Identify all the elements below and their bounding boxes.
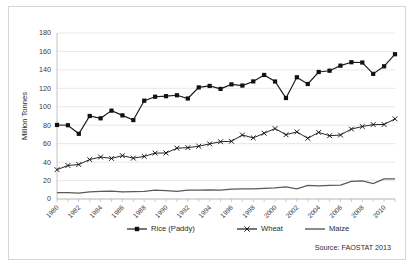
data-point-marker bbox=[262, 73, 266, 77]
data-point-marker bbox=[153, 95, 157, 99]
data-point-marker bbox=[186, 96, 190, 100]
x-axis-tick-label: 1998 bbox=[241, 204, 257, 220]
source-note: Source: FAOSTAT 2013 bbox=[315, 243, 391, 252]
x-axis-tick-label: 1994 bbox=[197, 204, 213, 220]
data-point-marker bbox=[164, 94, 168, 98]
x-axis-tick-label: 1984 bbox=[88, 204, 104, 220]
data-point-marker bbox=[371, 72, 375, 76]
data-point-marker bbox=[88, 114, 92, 118]
data-point-marker bbox=[338, 64, 342, 68]
x-axis-tick-label: 1992 bbox=[175, 204, 191, 220]
data-point-marker bbox=[316, 130, 321, 135]
data-point-marker bbox=[99, 116, 103, 120]
data-point-marker bbox=[382, 64, 386, 68]
x-axis-tick-label: 1982 bbox=[66, 204, 82, 220]
y-axis-title: Million Tonnes bbox=[20, 92, 29, 140]
data-point-marker bbox=[142, 99, 146, 103]
y-axis-tick-label: 60 bbox=[43, 139, 51, 148]
y-axis-tick-label: 180 bbox=[39, 28, 51, 37]
data-point-marker bbox=[327, 69, 331, 73]
series-line bbox=[57, 54, 395, 134]
y-axis-tick-label: 160 bbox=[39, 47, 51, 56]
x-axis-tick-label: 2010 bbox=[371, 204, 387, 220]
legend-marker bbox=[135, 227, 139, 231]
legend-label[interactable]: Rice (Paddy) bbox=[151, 224, 195, 233]
x-axis-tick-label: 1980 bbox=[44, 204, 60, 220]
line-chart: 0204060801001201401601801980198219841986… bbox=[9, 7, 407, 261]
chart-card: 0204060801001201401601801980198219841986… bbox=[8, 6, 406, 260]
x-axis-tick-label: 1990 bbox=[153, 204, 169, 220]
data-point-marker bbox=[208, 84, 212, 88]
data-point-marker bbox=[305, 136, 310, 141]
x-axis-tick-label: 1988 bbox=[132, 204, 148, 220]
data-point-marker bbox=[349, 60, 353, 64]
data-point-marker bbox=[109, 109, 113, 113]
x-axis-tick-label: 2000 bbox=[262, 204, 278, 220]
x-axis-tick-label: 1986 bbox=[110, 204, 126, 220]
y-axis-tick-label: 20 bbox=[43, 176, 51, 185]
data-point-marker bbox=[273, 126, 278, 131]
data-point-marker bbox=[77, 132, 81, 136]
y-axis-tick-label: 100 bbox=[39, 102, 51, 111]
x-axis-tick-label: 2002 bbox=[284, 204, 300, 220]
data-point-marker bbox=[295, 75, 299, 79]
data-point-marker bbox=[306, 82, 310, 86]
data-point-marker bbox=[229, 82, 233, 86]
data-point-marker bbox=[66, 123, 70, 127]
data-point-marker bbox=[251, 79, 255, 83]
data-point-marker bbox=[55, 123, 59, 127]
series-line bbox=[57, 179, 395, 193]
y-axis-tick-label: 40 bbox=[43, 158, 51, 167]
data-point-marker bbox=[393, 52, 397, 56]
legend-label[interactable]: Wheat bbox=[261, 224, 284, 233]
data-point-marker bbox=[175, 93, 179, 97]
data-point-marker bbox=[273, 79, 277, 83]
data-point-marker bbox=[240, 83, 244, 87]
data-point-marker bbox=[284, 96, 288, 100]
y-axis-tick-label: 0 bbox=[47, 194, 51, 203]
x-axis-tick-label: 2008 bbox=[350, 204, 366, 220]
x-axis-tick-label: 2006 bbox=[328, 204, 344, 220]
x-axis-tick-label: 1996 bbox=[219, 204, 235, 220]
y-axis-tick-label: 120 bbox=[39, 84, 51, 93]
data-point-marker bbox=[393, 116, 398, 121]
data-point-marker bbox=[131, 118, 135, 122]
data-point-marker bbox=[360, 60, 364, 64]
data-point-marker bbox=[317, 70, 321, 74]
data-point-marker bbox=[218, 87, 222, 91]
y-axis-tick-label: 80 bbox=[43, 121, 51, 130]
data-point-marker bbox=[262, 131, 267, 136]
x-axis-tick-label: 2004 bbox=[306, 204, 322, 220]
data-point-marker bbox=[120, 113, 124, 117]
legend-label[interactable]: Maize bbox=[329, 224, 349, 233]
data-point-marker bbox=[197, 85, 201, 89]
y-axis-tick-label: 140 bbox=[39, 65, 51, 74]
